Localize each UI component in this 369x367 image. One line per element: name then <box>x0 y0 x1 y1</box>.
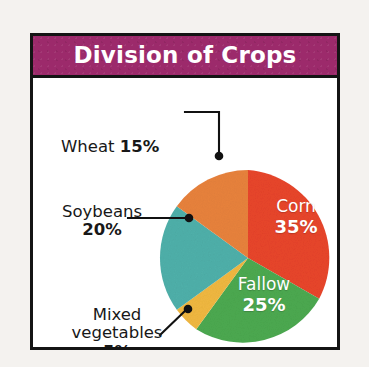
pie-label-corn-percent: 35% <box>274 216 317 237</box>
leader-dot-wheat <box>215 152 224 161</box>
chart-figure-frame: Division of Crops <box>30 33 340 350</box>
chart-title: Division of Crops <box>73 44 296 67</box>
pie-label-wheat-name: Wheat <box>61 137 115 156</box>
pie-label-wheat-percent: 15% <box>120 137 160 156</box>
pie-label-mixed-vegetables: Mixed vegetables 5% <box>51 306 183 347</box>
leader-dot-soybeans <box>185 214 194 223</box>
leader-dot-mixed-vegetables <box>184 305 193 314</box>
pie-label-corn: Corn 35% <box>257 196 335 237</box>
leader-line-wheat <box>185 112 219 155</box>
pie-label-soybeans: Soybeans 20% <box>43 203 161 240</box>
pie-chart-plot-area: Wheat 15% Soybeans 20% Mixed vegetables … <box>33 78 337 347</box>
pie-label-mixed-vegetables-name-line1: Mixed <box>93 305 142 324</box>
pie-label-fallow-name: Fallow <box>238 274 290 294</box>
pie-label-fallow-percent: 25% <box>242 294 285 315</box>
chart-title-bar: Division of Crops <box>33 36 337 78</box>
pie-label-soybeans-percent: 20% <box>82 220 122 239</box>
pie-label-fallow: Fallow 25% <box>219 274 309 315</box>
pie-label-wheat: Wheat 15% <box>61 138 159 156</box>
pie-label-corn-name: Corn <box>276 196 316 216</box>
pie-label-soybeans-name: Soybeans <box>62 202 142 221</box>
pie-label-mixed-vegetables-name-line2: vegetables <box>72 323 163 342</box>
pie-label-mixed-vegetables-percent: 5% <box>103 342 131 347</box>
